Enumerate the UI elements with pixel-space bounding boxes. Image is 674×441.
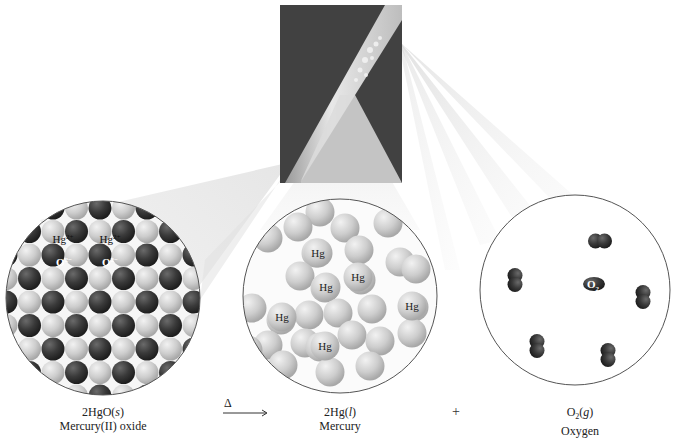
product1-name: Mercury — [290, 419, 390, 433]
heat-symbol: Δ — [224, 396, 232, 411]
reactant-caption: 2HgO(s) Mercury(II) oxide — [33, 405, 173, 433]
product2-formula: O2(g) — [540, 405, 620, 424]
reactant-name: Mercury(II) oxide — [33, 419, 173, 433]
svg-text:Hg: Hg — [311, 247, 325, 259]
product2-name: Oxygen — [540, 424, 620, 438]
product2-caption: O2(g) Oxygen — [540, 405, 620, 438]
panel-oxygen-gas: O2 — [480, 195, 670, 385]
plus-sign: + — [452, 404, 460, 420]
test-tube-photo — [280, 5, 402, 183]
product1-formula: 2Hg(l) — [290, 405, 390, 419]
product1-caption: 2Hg(l) Mercury — [290, 405, 390, 433]
svg-text:Hg: Hg — [275, 311, 289, 323]
svg-text:Hg: Hg — [405, 300, 419, 312]
svg-text:Hg: Hg — [318, 340, 332, 352]
svg-text:Hg: Hg — [351, 271, 365, 283]
svg-text:Hg: Hg — [319, 281, 333, 293]
reactant-formula: 2HgO(s) — [33, 405, 173, 419]
